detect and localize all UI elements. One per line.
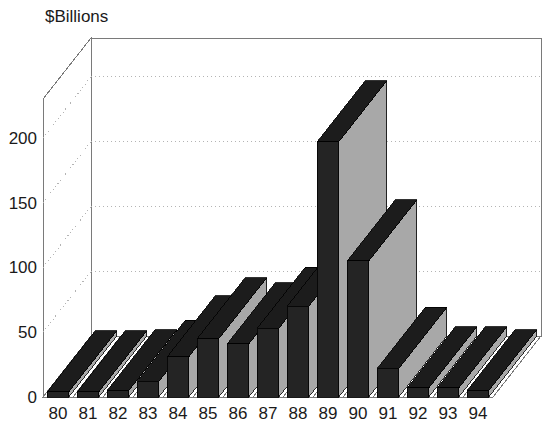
y-tick-label: 100 xyxy=(9,258,37,277)
x-tick-label-93: 93 xyxy=(439,404,458,423)
x-tick-label-94: 94 xyxy=(469,404,488,423)
x-tick-label-92: 92 xyxy=(409,404,428,423)
x-tick-label-88: 88 xyxy=(289,404,308,423)
y-tick-label: 150 xyxy=(9,194,37,213)
x-tick-label-83: 83 xyxy=(139,404,158,423)
y-axis-title: $Billions xyxy=(45,7,108,26)
x-tick-label-87: 87 xyxy=(259,404,278,423)
y-tick-label: 50 xyxy=(18,323,37,342)
x-axis-labels: 808182838485868788899091929394 xyxy=(49,404,488,423)
x-tick-label-84: 84 xyxy=(169,404,188,423)
x-tick-label-85: 85 xyxy=(199,404,218,423)
x-tick-label-81: 81 xyxy=(79,404,98,423)
x-tick-label-80: 80 xyxy=(49,404,68,423)
x-tick-label-89: 89 xyxy=(319,404,338,423)
bar-chart-3d: 200150100500 808182838485868788899091929… xyxy=(0,0,543,433)
x-tick-label-82: 82 xyxy=(109,404,128,423)
y-tick-label: 200 xyxy=(9,129,37,148)
x-tick-label-90: 90 xyxy=(349,404,368,423)
y-tick-label: 0 xyxy=(28,388,37,407)
x-tick-label-86: 86 xyxy=(229,404,248,423)
x-tick-label-91: 91 xyxy=(379,404,398,423)
chart-container: 200150100500 808182838485868788899091929… xyxy=(0,0,543,433)
